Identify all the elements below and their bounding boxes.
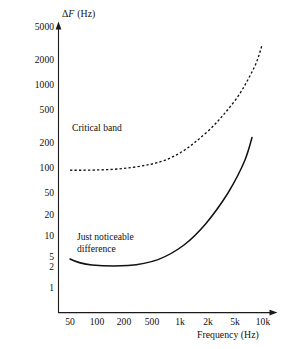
chart-figure: 5000 2000 1000 500 200 100 50 20 10 5 2 … (0, 0, 284, 349)
y-tick-label: 1000 (35, 79, 54, 90)
x-tick-label: 1k (175, 316, 185, 327)
x-tick-label: 200 (117, 316, 132, 327)
y-axis-title-variable: F (67, 8, 75, 19)
y-tick-label: 500 (40, 104, 55, 115)
log-log-plot: 5000 2000 1000 500 200 100 50 20 10 5 2 … (0, 0, 284, 349)
x-tick-label: 50 (65, 316, 75, 327)
x-tick-label: 500 (145, 316, 160, 327)
y-tick-label: 50 (44, 187, 54, 198)
y-axis-title: ΔF(Hz) (62, 8, 95, 20)
jnd-label-line2: difference (77, 243, 116, 254)
y-tick-label: 100 (40, 162, 55, 173)
jnd-label-line1: Just noticeable (77, 231, 134, 242)
x-tick-label: 100 (90, 316, 105, 327)
critical-band-label: Critical band (72, 122, 122, 133)
y-tick-label: 200 (40, 137, 55, 148)
x-axis-title: Frequency (Hz) (197, 329, 259, 341)
y-tick-label-2: 2 (49, 261, 54, 272)
y-tick-label: 10 (44, 230, 54, 241)
x-tick-label: 5k (230, 316, 240, 327)
plot-background (0, 0, 284, 349)
y-tick-label: 2000 (35, 54, 54, 65)
x-tick-label: 2k (203, 316, 213, 327)
y-axis-title-units: (Hz) (77, 8, 95, 20)
svg-text:ΔF(Hz): ΔF(Hz) (62, 8, 95, 20)
y-tick-label: 20 (44, 209, 54, 220)
y-tick-label: 5000 (35, 21, 54, 32)
y-tick-label-1: 1 (49, 282, 54, 293)
x-tick-label: 10k (256, 316, 271, 327)
